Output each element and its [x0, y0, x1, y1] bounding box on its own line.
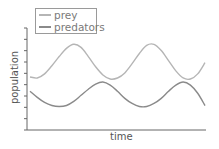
legend-label-prey: prey	[54, 9, 77, 21]
legend-item-prey: prey	[39, 9, 77, 21]
legend-swatch-prey	[39, 14, 51, 15]
x-axis-label: time	[110, 131, 133, 142]
predator-prey-chart: prey predators time population	[0, 0, 219, 149]
series-line-prey	[30, 44, 205, 79]
legend-swatch-predators	[39, 26, 51, 27]
plot-area	[0, 0, 219, 149]
series-line-predators	[30, 82, 205, 107]
legend-label-predators: predators	[54, 21, 105, 33]
legend: prey predators	[35, 8, 97, 34]
y-axis-label: population	[9, 48, 20, 108]
series-lines	[30, 44, 205, 107]
legend-item-predators: predators	[39, 21, 105, 33]
